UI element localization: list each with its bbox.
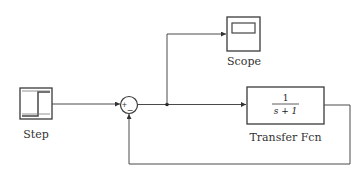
wire-branch-to-scope[interactable] (167, 34, 226, 105)
scope-screen-icon (232, 23, 255, 33)
tf-denominator: s + 1 (274, 106, 298, 116)
scope-block[interactable]: Scope (227, 17, 261, 68)
block-diagram: Step + − Scope 1 s + 1 Transfer Fcn (0, 0, 364, 180)
transfer-fcn-block[interactable]: 1 s + 1 Transfer Fcn (247, 87, 324, 144)
sum-block[interactable]: + − (121, 97, 138, 116)
sum-minus-sign: − (127, 106, 134, 115)
scope-block-frame[interactable] (227, 17, 260, 51)
step-block[interactable]: Step (20, 88, 52, 141)
scope-label: Scope (227, 55, 261, 68)
transfer-fcn-label: Transfer Fcn (249, 131, 321, 144)
tf-numerator: 1 (283, 93, 289, 103)
step-label: Step (23, 128, 49, 141)
